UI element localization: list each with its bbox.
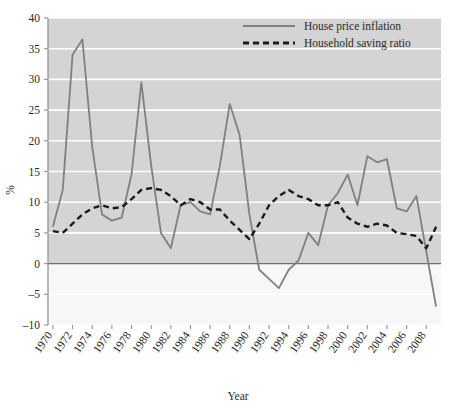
x-tick-label-2002: 2002 [346, 329, 369, 355]
x-tick-label-1996: 1996 [287, 329, 310, 355]
x-tick-label-2008: 2008 [405, 329, 428, 355]
y-tick-label--10: –10 [22, 319, 41, 331]
y-tick-label-25: 25 [29, 104, 41, 116]
chart-figure: –10–50510152025303540 197019721974197619… [0, 0, 460, 409]
legend-label-house-price-inflation: House price inflation [304, 20, 401, 33]
x-tick-labels-group: 1970197219741976197819801982198419861988… [32, 329, 429, 355]
x-tick-label-2004: 2004 [366, 329, 389, 355]
x-tick-label-1978: 1978 [110, 329, 133, 355]
y-tick-label-35: 35 [29, 43, 41, 55]
y-tick-label--5: –5 [28, 288, 41, 300]
y-tick-label-0: 0 [34, 258, 40, 270]
x-tick-label-1986: 1986 [189, 329, 212, 355]
x-tick-label-1990: 1990 [228, 329, 251, 355]
x-tick-label-1994: 1994 [267, 329, 290, 355]
x-tick-label-2006: 2006 [385, 329, 408, 355]
y-tick-label-5: 5 [34, 227, 40, 239]
x-tick-label-1988: 1988 [208, 329, 231, 355]
y-tick-label-10: 10 [29, 196, 41, 208]
y-tick-label-20: 20 [29, 135, 41, 147]
x-tick-label-1974: 1974 [71, 329, 94, 355]
x-axis-title: Year [227, 390, 248, 402]
x-tick-label-2000: 2000 [326, 329, 349, 355]
legend-label-household-saving-ratio: Household saving ratio [304, 37, 411, 50]
y-axis-title: % [4, 185, 16, 195]
x-tick-label-1970: 1970 [32, 329, 55, 355]
x-tick-label-1980: 1980 [130, 329, 153, 355]
x-tick-label-1976: 1976 [90, 329, 113, 355]
x-tick-label-1972: 1972 [51, 329, 74, 355]
y-tick-label-15: 15 [29, 166, 41, 178]
y-tick-labels-group: –10–50510152025303540 [22, 12, 41, 331]
house-price-inflation-chart: –10–50510152025303540 197019721974197619… [0, 0, 460, 409]
x-tick-label-1992: 1992 [248, 329, 271, 355]
y-tick-label-30: 30 [29, 73, 41, 85]
x-tick-label-1998: 1998 [307, 329, 330, 355]
x-tick-label-1984: 1984 [169, 329, 192, 355]
x-tick-label-1982: 1982 [149, 329, 172, 355]
y-tick-label-40: 40 [29, 12, 41, 24]
